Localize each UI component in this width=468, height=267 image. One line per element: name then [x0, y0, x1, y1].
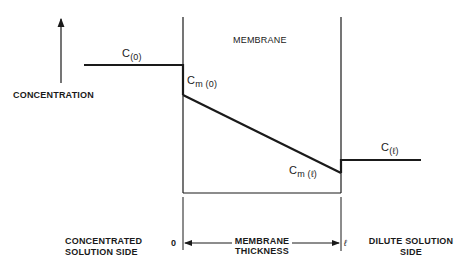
concentrated-side-label: CONCENTRATED SOLUTION SIDE: [65, 236, 142, 258]
concentration-profile-left: [84, 65, 183, 95]
concentration-gradient-line: [183, 95, 341, 173]
concentration-profile-right: [341, 160, 421, 173]
x-start-label: 0: [171, 238, 176, 248]
thickness-label-line2: THICKNESS: [232, 246, 292, 256]
cm0-label: Cm (0): [187, 74, 217, 89]
membrane-label: MEMBRANE: [233, 35, 287, 45]
dilute-side-label: DILUTE SOLUTION SIDE: [366, 236, 456, 258]
x-end-label: ℓ: [344, 238, 347, 248]
c0-label: C(0): [122, 47, 142, 62]
cl-label: C(ℓ): [381, 141, 399, 156]
cml-label: Cm (ℓ): [289, 164, 317, 179]
concentration-axis-label: CONCENTRATION: [13, 90, 94, 100]
